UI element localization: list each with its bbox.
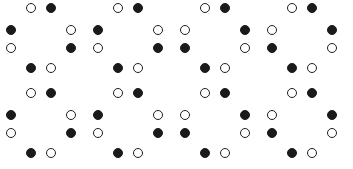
filled-circle-right-upper — [240, 25, 250, 35]
figure-canvas — [0, 0, 353, 169]
open-circle-bottom-right — [307, 148, 317, 158]
open-circle-right-upper — [153, 25, 163, 35]
open-circle-right-upper — [153, 110, 163, 120]
open-circle-bottom-right — [307, 63, 317, 73]
open-circle-top-left — [113, 3, 123, 13]
filled-circle-left-lower — [180, 128, 190, 138]
filled-circle-bottom-left — [200, 148, 210, 158]
filled-circle-bottom-left — [26, 63, 36, 73]
filled-circle-top-right — [133, 88, 143, 98]
filled-circle-right-lower — [66, 128, 76, 138]
open-circle-top-left — [287, 88, 297, 98]
open-circle-left-upper — [267, 25, 277, 35]
cluster-r1c1 — [4, 3, 84, 77]
filled-circle-left-upper — [6, 110, 16, 120]
open-circle-top-left — [26, 3, 36, 13]
filled-circle-right-upper — [327, 110, 337, 120]
open-circle-left-lower — [6, 43, 16, 53]
filled-circle-left-lower — [267, 43, 277, 53]
cluster-r1c2 — [91, 3, 171, 77]
filled-circle-left-lower — [180, 43, 190, 53]
open-circle-left-upper — [267, 110, 277, 120]
open-circle-bottom-right — [46, 63, 56, 73]
filled-circle-top-right — [133, 3, 143, 13]
filled-circle-bottom-left — [113, 63, 123, 73]
open-circle-left-lower — [93, 128, 103, 138]
open-circle-left-upper — [180, 110, 190, 120]
filled-circle-bottom-left — [113, 148, 123, 158]
open-circle-top-left — [200, 88, 210, 98]
open-circle-top-left — [287, 3, 297, 13]
open-circle-right-upper — [66, 110, 76, 120]
open-circle-bottom-right — [133, 148, 143, 158]
cluster-r2c4 — [265, 88, 345, 162]
open-circle-left-lower — [6, 128, 16, 138]
open-circle-right-lower — [327, 43, 337, 53]
open-circle-right-lower — [240, 128, 250, 138]
open-circle-bottom-right — [133, 63, 143, 73]
filled-circle-bottom-left — [26, 148, 36, 158]
open-circle-bottom-right — [220, 63, 230, 73]
filled-circle-top-right — [307, 88, 317, 98]
cluster-r2c2 — [91, 88, 171, 162]
open-circle-top-left — [200, 3, 210, 13]
filled-circle-top-right — [46, 3, 56, 13]
filled-circle-bottom-left — [200, 63, 210, 73]
open-circle-bottom-right — [46, 148, 56, 158]
open-circle-top-left — [26, 88, 36, 98]
filled-circle-right-lower — [66, 43, 76, 53]
cluster-r1c4 — [265, 3, 345, 77]
open-circle-bottom-right — [220, 148, 230, 158]
filled-circle-top-right — [220, 3, 230, 13]
filled-circle-left-upper — [93, 110, 103, 120]
open-circle-top-left — [113, 88, 123, 98]
open-circle-left-upper — [180, 25, 190, 35]
filled-circle-bottom-left — [287, 148, 297, 158]
open-circle-right-upper — [66, 25, 76, 35]
cluster-r1c3 — [178, 3, 258, 77]
open-circle-right-lower — [327, 128, 337, 138]
open-circle-right-lower — [240, 43, 250, 53]
filled-circle-bottom-left — [287, 63, 297, 73]
cluster-r2c3 — [178, 88, 258, 162]
filled-circle-right-lower — [153, 43, 163, 53]
filled-circle-left-upper — [93, 25, 103, 35]
open-circle-left-lower — [93, 43, 103, 53]
filled-circle-top-right — [46, 88, 56, 98]
filled-circle-top-right — [220, 88, 230, 98]
cluster-r2c1 — [4, 88, 84, 162]
filled-circle-right-lower — [153, 128, 163, 138]
filled-circle-left-lower — [267, 128, 277, 138]
filled-circle-top-right — [307, 3, 317, 13]
filled-circle-right-upper — [240, 110, 250, 120]
filled-circle-right-upper — [327, 25, 337, 35]
filled-circle-left-upper — [6, 25, 16, 35]
